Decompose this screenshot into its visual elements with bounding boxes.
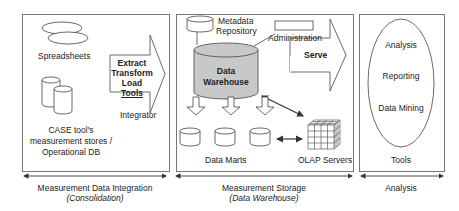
administration-box xyxy=(275,21,313,30)
analysis-footer-title: Analysis xyxy=(359,183,443,194)
integrator-label: Integrator xyxy=(120,110,156,121)
spreadsheets-label: Spreadsheets xyxy=(38,51,90,62)
olap-cube-icon xyxy=(308,120,340,149)
data-marts-label: Data Marts xyxy=(205,155,247,166)
data-mining-item-label: Data Mining xyxy=(366,103,436,114)
case-label-3: Operational DB xyxy=(26,147,116,158)
analysis-tools-ellipse xyxy=(368,19,434,147)
metadata-label-2: Repository xyxy=(216,26,257,37)
database-icon xyxy=(42,77,72,114)
etl-label-4: Tools xyxy=(110,88,154,99)
serve-label: Serve xyxy=(304,50,327,61)
down-arrow-icons xyxy=(187,97,274,115)
data-warehouse-label-1: Data xyxy=(196,66,256,77)
case-label-1: CASE tool's xyxy=(26,125,116,136)
reporting-item-label: Reporting xyxy=(371,71,431,82)
metadata-repository-icon xyxy=(187,16,213,45)
data-mart-icons xyxy=(180,128,270,146)
storage-footer-subtitle: (Data Warehouse) xyxy=(176,193,352,204)
spreadsheets-icon xyxy=(42,22,88,44)
administration-label: Administration xyxy=(268,33,322,44)
tools-label: Tools xyxy=(371,155,431,166)
olap-servers-label: OLAP Servers xyxy=(298,155,352,166)
data-warehouse-label-2: Warehouse xyxy=(196,77,256,88)
case-label-2: measurement stores / xyxy=(21,136,121,147)
analysis-item-label: Analysis xyxy=(371,40,431,51)
integration-footer-subtitle: (Consolidation) xyxy=(22,193,168,204)
